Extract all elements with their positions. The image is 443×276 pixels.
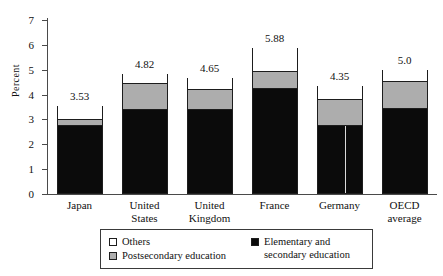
x-label-line-2: Kingdom xyxy=(171,212,249,225)
legend-item-others: Others xyxy=(109,235,226,248)
segment-postsecondary xyxy=(318,99,362,126)
legend-column-right: Elementary and secondary education xyxy=(251,235,350,262)
y-tick-label-0: 0 xyxy=(29,188,35,200)
segment-others xyxy=(188,77,232,89)
value-label-germany: 4.35 xyxy=(305,70,375,82)
y-tick-label-4: 4 xyxy=(29,89,35,101)
y-tick-3: 3 xyxy=(42,119,47,120)
legend-label-others: Others xyxy=(122,235,150,248)
segment-others xyxy=(383,69,427,81)
y-tick-label-3: 3 xyxy=(29,113,35,125)
segment-elementary-secondary xyxy=(383,109,427,193)
value-label-japan: 3.53 xyxy=(45,90,115,102)
y-tick-6: 6 xyxy=(42,45,47,46)
legend-swatch-postsecondary-icon xyxy=(109,252,117,260)
chart-legend: Others Postsecondary education Elementar… xyxy=(100,229,373,269)
y-tick-2: 2 xyxy=(42,144,47,145)
value-label-united-kingdom: 4.65 xyxy=(175,62,245,74)
segment-others xyxy=(253,47,297,71)
segment-elementary-secondary xyxy=(123,110,167,193)
legend-column-left: Others Postsecondary education xyxy=(109,235,226,263)
segment-elementary-secondary xyxy=(58,126,102,193)
y-tick-7: 7 xyxy=(42,20,47,21)
bar-oecd-average[interactable] xyxy=(382,70,428,194)
y-tick-label-5: 5 xyxy=(29,64,35,76)
segment-postsecondary xyxy=(188,89,232,110)
bar-united-states[interactable] xyxy=(122,74,168,194)
segment-others xyxy=(58,105,102,119)
y-tick-5: 5 xyxy=(42,70,47,71)
y-tick-label-6: 6 xyxy=(29,39,35,51)
y-tick-1: 1 xyxy=(42,169,47,170)
scan-artifact-line xyxy=(345,126,346,193)
value-label-oecd-average: 5.0 xyxy=(370,54,440,66)
segment-elementary-secondary xyxy=(318,126,362,193)
segment-postsecondary xyxy=(253,71,297,89)
segment-elementary-secondary xyxy=(188,110,232,193)
value-label-france: 5.88 xyxy=(240,32,310,44)
legend-label-elementary-line1: Elementary and xyxy=(264,235,350,248)
segment-others xyxy=(318,85,362,99)
segment-postsecondary xyxy=(383,81,427,109)
x-label-line-2: average xyxy=(366,212,443,225)
x-label-oecd-average: OECDaverage xyxy=(366,199,443,224)
legend-label-elementary: Elementary and secondary education xyxy=(264,235,350,261)
bar-germany[interactable] xyxy=(317,86,363,194)
bar-united-kingdom[interactable] xyxy=(187,78,233,194)
y-axis-line xyxy=(47,18,48,195)
y-tick-label-7: 7 xyxy=(29,14,35,26)
legend-swatch-others-icon xyxy=(109,238,117,246)
x-axis-line xyxy=(47,194,437,195)
y-tick-label-2: 2 xyxy=(29,138,35,150)
segment-postsecondary xyxy=(58,119,102,125)
legend-swatch-elementary-icon xyxy=(251,238,259,246)
legend-item-postsecondary: Postsecondary education xyxy=(109,249,226,262)
segment-elementary-secondary xyxy=(253,89,297,193)
bar-japan[interactable] xyxy=(57,106,103,194)
legend-label-postsecondary: Postsecondary education xyxy=(122,249,226,262)
y-axis-title: Percent xyxy=(10,46,21,116)
legend-item-elementary: Elementary and secondary education xyxy=(251,235,350,261)
segment-others xyxy=(123,73,167,82)
segment-postsecondary xyxy=(123,83,167,110)
y-tick-0: 0 xyxy=(42,194,47,195)
x-label-line-1: OECD xyxy=(366,199,443,212)
plot-area: 01234567 3.534.824.655.884.355.0 xyxy=(47,18,437,195)
y-tick-label-1: 1 xyxy=(29,163,35,175)
stacked-bar-chart: Percent 01234567 3.534.824.655.884.355.0… xyxy=(0,0,443,276)
legend-label-elementary-line2: secondary education xyxy=(264,248,350,261)
bar-france[interactable] xyxy=(252,48,298,194)
value-label-united-states: 4.82 xyxy=(110,58,180,70)
